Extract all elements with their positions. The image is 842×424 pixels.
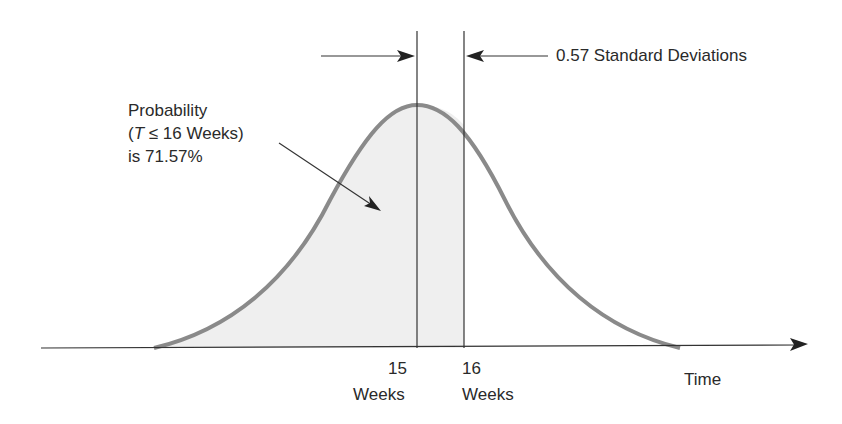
probability-label-line1: Probability: [128, 101, 207, 121]
tick-unit-15: Weeks: [353, 385, 405, 405]
probability-label-line3: is 71.57%: [128, 147, 203, 167]
condition-text: ≤ 16 Weeks): [144, 124, 244, 143]
std-dev-label: 0.57 Standard Deviations: [556, 46, 747, 66]
probability-label-line2: (T ≤ 16 Weeks): [128, 124, 244, 144]
tick-unit-16: Weeks: [462, 385, 514, 405]
tick-label-15: 15: [388, 359, 407, 379]
variable-t: T: [134, 124, 144, 143]
x-axis-label: Time: [684, 370, 721, 390]
tick-label-16: 16: [462, 359, 481, 379]
